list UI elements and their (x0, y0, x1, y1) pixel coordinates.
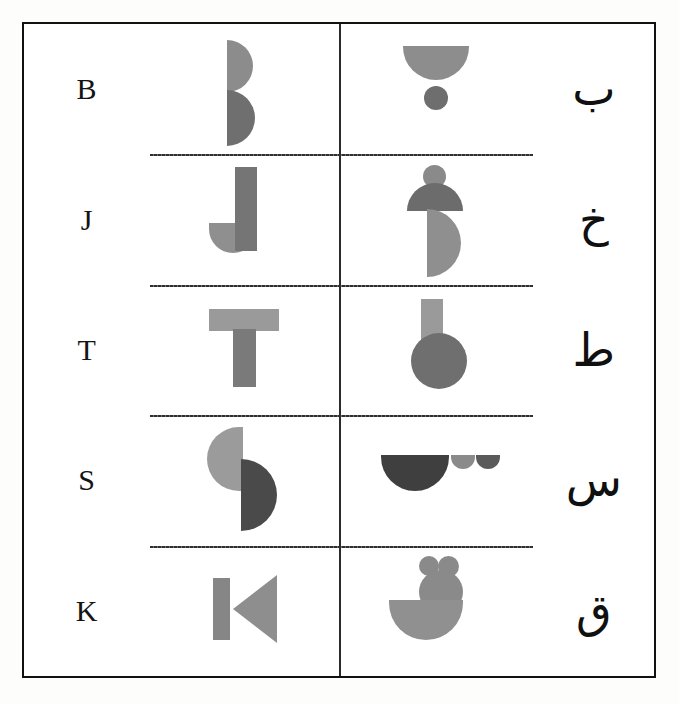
belly-semicircle (427, 209, 461, 277)
latin-letter-cell: S (24, 415, 149, 545)
shape-offset-left-and-right-semicircles (183, 425, 303, 535)
latin-letter-cell: J (24, 154, 149, 284)
horizontal-bar (209, 309, 279, 331)
latin-letter-cell: B (24, 24, 149, 154)
small-bowl-one (451, 455, 475, 469)
vertical-bar (235, 167, 257, 251)
arabic-shape-cell (337, 154, 534, 284)
shape-two-dots-circle-and-bowl (375, 556, 495, 666)
semicircle-upper (227, 40, 253, 92)
shape-vertical-bar-with-overlapping-circle (375, 295, 495, 405)
shape-large-bowl-with-two-small-bowls (375, 425, 495, 535)
latin-letter-cell: K (24, 546, 149, 676)
left-pointing-triangle (233, 575, 277, 643)
arabic-shape-cell (337, 24, 534, 154)
latin-shape-cell (149, 546, 337, 676)
arabic-letter-tah: ط (573, 327, 616, 373)
table-row: T ط (24, 285, 654, 415)
arabic-letter-qaf: ق (576, 588, 612, 634)
arabic-shape-cell (337, 546, 534, 676)
shape-vertical-bar-with-bottom-left-hook (183, 165, 303, 275)
vertical-bar (213, 578, 230, 640)
large-bowl (381, 455, 449, 491)
semicircle-lower-right (241, 459, 277, 531)
latin-shape-cell (149, 154, 337, 284)
arabic-letter-seen: س (566, 457, 622, 503)
table-rows: B ب J (24, 24, 654, 676)
bowl-semicircle (403, 46, 469, 80)
shape-two-stacked-right-semicircles (183, 34, 303, 144)
shape-bottom-semicircle-with-dot-below (375, 34, 495, 144)
latin-shape-cell (149, 24, 337, 154)
latin-shape-cell (149, 415, 337, 545)
table-row: B ب (24, 24, 654, 154)
arabic-letter-khah: خ (579, 197, 609, 243)
bowl-semicircle (389, 600, 463, 640)
latin-letter-b: B (77, 74, 97, 104)
arabic-shape-cell (337, 285, 534, 415)
shape-vertical-bar-with-left-pointing-triangle (183, 556, 303, 666)
arabic-letter-cell: س (534, 415, 654, 545)
shape-dot-cap-and-right-belly (375, 165, 495, 275)
arabic-letter-cell: ق (534, 546, 654, 676)
latin-letter-t: T (77, 335, 95, 365)
arabic-letter-cell: ط (534, 285, 654, 415)
latin-letter-j: J (81, 205, 93, 235)
semicircle-upper-left (207, 427, 243, 491)
latin-shape-cell (149, 285, 337, 415)
arabic-shape-cell (337, 415, 534, 545)
letter-table: B ب J (22, 22, 656, 678)
small-bowl-two (476, 455, 500, 469)
cap-semicircle (407, 183, 463, 211)
semicircle-lower (227, 90, 255, 146)
table-row: K ق (24, 546, 654, 676)
arabic-letter-cell: خ (534, 154, 654, 284)
arabic-letter-beh: ب (572, 66, 615, 112)
latin-letter-k: K (76, 596, 98, 626)
arabic-letter-cell: ب (534, 24, 654, 154)
vertical-bar (233, 329, 256, 387)
latin-letter-s: S (78, 465, 95, 495)
dot-circle (424, 86, 448, 110)
table-row: J خ (24, 154, 654, 284)
shape-horizontal-bar-over-vertical-stem (183, 295, 303, 405)
table-row: S س (24, 415, 654, 545)
overlapping-circle (411, 333, 467, 389)
latin-letter-cell: T (24, 285, 149, 415)
